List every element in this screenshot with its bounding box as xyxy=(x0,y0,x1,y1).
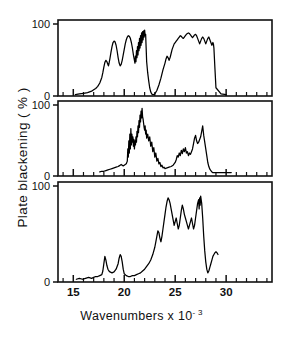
panel-frame xyxy=(58,101,272,176)
x-tick-label: 15 xyxy=(67,286,80,298)
spectrum-trace xyxy=(76,196,218,279)
x-tick-label: 30 xyxy=(220,286,233,298)
panel-top: 0100 xyxy=(32,18,272,102)
panel-frame xyxy=(58,20,272,96)
spectrum-trace xyxy=(100,108,231,172)
panel-middle: 0100 xyxy=(32,99,272,182)
x-tick-label: 25 xyxy=(169,286,182,298)
y-tick-label-100: 100 xyxy=(32,18,50,30)
spectrum-trace xyxy=(75,30,226,94)
plot-svg: 01000100010015202530 xyxy=(0,0,283,337)
y-tick-label-100: 100 xyxy=(32,180,50,192)
panel-frame xyxy=(58,182,272,282)
y-tick-label-0: 0 xyxy=(44,276,50,288)
x-axis-tick-labels: 15202530 xyxy=(67,286,233,298)
y-tick-label-100: 100 xyxy=(32,99,50,111)
spectra-figure: Plate blackening ( % ) Wavenumbers x 10-… xyxy=(0,0,283,337)
panel-bottom: 0100 xyxy=(32,180,272,288)
x-tick-label: 20 xyxy=(118,286,131,298)
